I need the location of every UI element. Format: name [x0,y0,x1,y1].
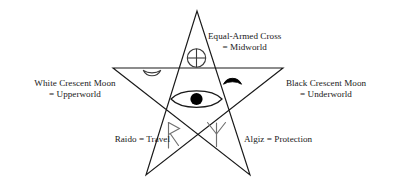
circled-cross-icon [187,49,205,67]
label-white-crescent-moon-line2: = Upperworld [10,89,140,100]
crescent-moon-filled-icon [224,78,242,84]
label-equal-armed-cross-line2: = Midworld [208,42,281,53]
raido-rune-icon [169,123,180,149]
label-black-crescent-moon: Black Crescent Moon = Underworld [264,78,388,100]
label-equal-armed-cross-line1: Equal-Armed Cross [208,31,281,41]
label-algiz-text: Algiz = Protection [244,134,312,144]
figure-canvas: Equal-Armed Cross = Midworld White Cresc… [0,0,393,182]
label-algiz: Algiz = Protection [244,134,312,145]
eye-pupil [190,93,202,105]
label-raido-text: Raido = Travel [115,134,170,144]
label-raido: Raido = Travel [70,134,170,145]
algiz-rune-icon [208,123,226,147]
label-white-crescent-moon: White Crescent Moon = Upperworld [10,78,140,100]
eye-icon [171,91,222,108]
label-black-crescent-moon-line2: = Underworld [264,89,388,100]
label-equal-armed-cross: Equal-Armed Cross = Midworld [208,31,281,53]
label-black-crescent-moon-line1: Black Crescent Moon [286,78,366,88]
crescent-moon-outline-icon [143,70,160,75]
label-white-crescent-moon-line1: White Crescent Moon [34,78,115,88]
